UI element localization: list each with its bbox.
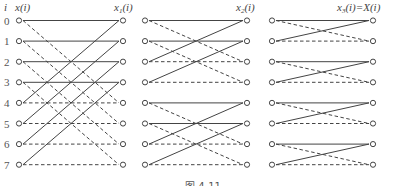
node-circle xyxy=(142,59,147,64)
input-label: x(i) xyxy=(14,1,31,14)
header-labels: i x(i) x1(i) x2(i) x3(i)=X(i) xyxy=(4,1,381,15)
node-circle xyxy=(142,18,147,23)
node-circle xyxy=(244,80,249,85)
node-circle xyxy=(120,162,125,167)
node-circle xyxy=(142,121,147,126)
butterfly-edges xyxy=(23,21,369,165)
node-circle xyxy=(16,39,21,44)
figure-caption: 图 4-11 xyxy=(185,181,221,186)
node-circle xyxy=(16,142,21,147)
node-circle xyxy=(370,121,375,126)
node-circle xyxy=(142,39,147,44)
node-circle xyxy=(16,100,21,105)
node-circle xyxy=(142,142,147,147)
node-circle xyxy=(120,39,125,44)
node-circle xyxy=(244,100,249,105)
node-circle xyxy=(142,80,147,85)
row-index: 4 xyxy=(4,97,10,109)
row-index: 5 xyxy=(4,118,10,130)
node-circle xyxy=(370,59,375,64)
node-circle xyxy=(244,162,249,167)
row-index: 2 xyxy=(4,56,10,68)
node-circle xyxy=(370,39,375,44)
node-circle xyxy=(244,121,249,126)
stage1-label: x1(i) xyxy=(113,1,133,15)
node-circle xyxy=(16,162,21,167)
node-circle xyxy=(370,80,375,85)
node-circle xyxy=(269,142,274,147)
node-circle xyxy=(244,18,249,23)
node-circle xyxy=(16,18,21,23)
node-circle xyxy=(120,121,125,126)
row-index: 6 xyxy=(4,138,10,150)
node-circle xyxy=(16,80,21,85)
node-circle xyxy=(244,142,249,147)
node-circle xyxy=(142,162,147,167)
node-circle xyxy=(120,80,125,85)
node-circle xyxy=(269,162,274,167)
node-circle xyxy=(142,100,147,105)
node-circle xyxy=(16,121,21,126)
node-circle xyxy=(370,142,375,147)
row-index: 3 xyxy=(4,76,10,88)
node-circle xyxy=(120,59,125,64)
row-index: 7 xyxy=(4,159,10,171)
node-circle xyxy=(269,121,274,126)
row-index: 0 xyxy=(4,15,10,27)
row-index: 1 xyxy=(4,35,10,47)
node-circle xyxy=(269,59,274,64)
node-circle xyxy=(16,59,21,64)
butterfly-nodes xyxy=(16,18,375,167)
stage3-label: x3(i)=X(i) xyxy=(336,1,381,15)
node-circle xyxy=(370,18,375,23)
stage2-label: x2(i) xyxy=(235,1,255,15)
butterfly-diagram: i x(i) x1(i) x2(i) x3(i)=X(i) 01234567 图… xyxy=(0,0,399,186)
node-circle xyxy=(370,100,375,105)
node-circle xyxy=(269,18,274,23)
node-circle xyxy=(269,100,274,105)
node-circle xyxy=(269,80,274,85)
node-circle xyxy=(370,162,375,167)
node-circle xyxy=(244,59,249,64)
node-circle xyxy=(244,39,249,44)
index-label: i xyxy=(4,1,7,13)
node-circle xyxy=(269,39,274,44)
node-circle xyxy=(120,100,125,105)
node-circle xyxy=(120,18,125,23)
node-circle xyxy=(120,142,125,147)
row-numbers: 01234567 xyxy=(4,15,10,171)
